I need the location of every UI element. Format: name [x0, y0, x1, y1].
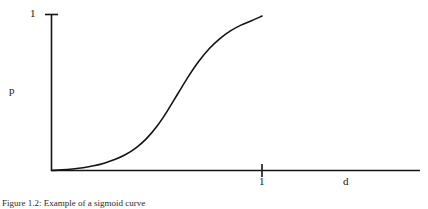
x-axis-tick-label: 1 — [259, 176, 265, 187]
sigmoid-curve — [52, 16, 263, 170]
figure-container: p 1 1 d Figure 1.2: Example of a sigmoid… — [0, 0, 428, 209]
x-axis-label: d — [343, 176, 349, 187]
figure-caption: Figure 1.2: Example of a sigmoid curve — [2, 199, 426, 209]
y-axis-tick-label: 1 — [30, 8, 36, 19]
sigmoid-plot — [0, 0, 428, 209]
y-axis-label: p — [9, 85, 15, 96]
